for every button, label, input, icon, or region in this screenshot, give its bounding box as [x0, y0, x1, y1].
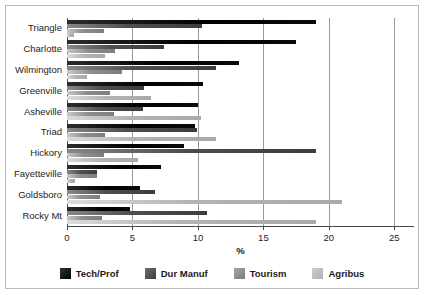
bar: [67, 153, 104, 157]
bar: [67, 96, 151, 100]
legend-label: Tech/Prof: [76, 268, 119, 279]
category-label: Charlotte: [23, 44, 62, 54]
x-tick-label: 15: [258, 232, 269, 243]
category-label: Goldsboro: [18, 190, 62, 200]
x-tick-label: 25: [389, 232, 400, 243]
bar: [67, 33, 74, 37]
bar: [67, 158, 138, 162]
bar-group: Triad: [67, 122, 414, 143]
bar: [67, 112, 114, 116]
bar: [67, 116, 201, 120]
bar: [67, 45, 164, 49]
bar: [67, 75, 87, 79]
x-axis-line: [67, 226, 414, 227]
bar: [67, 20, 316, 24]
bar: [67, 128, 197, 132]
bar: [67, 91, 110, 95]
bar: [67, 179, 75, 183]
bar: [67, 149, 316, 153]
bar: [67, 49, 115, 53]
category-label: Rocky Mt: [22, 211, 62, 221]
bar-group: Asheville: [67, 101, 414, 122]
bar-group: Hickory: [67, 143, 414, 164]
bar-group: Rocky Mt: [67, 205, 414, 226]
legend-label: Agribus: [328, 268, 364, 279]
bar: [67, 61, 239, 65]
bar-group: Greenville: [67, 80, 414, 101]
bar: [67, 195, 100, 199]
x-tick-mark: [394, 226, 395, 230]
legend-swatch-icon: [234, 268, 245, 279]
bar: [67, 29, 104, 33]
chart-frame: TriangleCharlotteWilmingtonGreenvilleAsh…: [5, 5, 419, 289]
x-tick-label: 5: [130, 232, 135, 243]
bar: [67, 124, 195, 128]
x-tick-mark: [67, 226, 68, 230]
bar: [67, 144, 184, 148]
bar: [67, 170, 97, 174]
legend-item[interactable]: Tourism: [234, 268, 287, 279]
bar: [67, 133, 105, 137]
legend-label: Dur Manuf: [161, 268, 208, 279]
category-label: Triad: [41, 127, 62, 137]
bar: [67, 165, 161, 169]
legend-swatch-icon: [145, 268, 156, 279]
bar-group: Charlotte: [67, 39, 414, 60]
bar: [67, 107, 143, 111]
bar: [67, 190, 155, 194]
bar-group: Wilmington: [67, 60, 414, 81]
bar: [67, 216, 102, 220]
bar: [67, 207, 130, 211]
legend-item[interactable]: Dur Manuf: [145, 268, 208, 279]
bar-group: Triangle: [67, 18, 414, 39]
bar: [67, 137, 216, 141]
bar: [67, 24, 202, 28]
category-label: Wilmington: [15, 65, 62, 75]
x-tick-mark: [263, 226, 264, 230]
bar: [67, 174, 97, 178]
category-label: Fayetteville: [14, 169, 62, 179]
bar: [67, 211, 207, 215]
legend-item[interactable]: Agribus: [312, 268, 364, 279]
category-label: Triangle: [28, 23, 62, 33]
bar-group: Fayetteville: [67, 164, 414, 185]
x-tick-mark: [198, 226, 199, 230]
bar: [67, 220, 316, 224]
bar: [67, 82, 203, 86]
category-label: Asheville: [24, 107, 62, 117]
x-axis-title: %: [67, 245, 414, 256]
bar: [67, 70, 122, 74]
bar: [67, 54, 105, 58]
category-label: Greenville: [19, 86, 62, 96]
legend-swatch-icon: [60, 268, 71, 279]
plot-area: TriangleCharlotteWilmingtonGreenvilleAsh…: [67, 18, 414, 226]
legend-swatch-icon: [312, 268, 323, 279]
bar: [67, 86, 144, 90]
x-tick-label: 0: [64, 232, 69, 243]
bar-group: Goldsboro: [67, 184, 414, 205]
bar: [67, 103, 198, 107]
bar: [67, 186, 140, 190]
legend-item[interactable]: Tech/Prof: [60, 268, 119, 279]
x-tick-mark: [329, 226, 330, 230]
chart-legend: Tech/ProfDur ManufTourismAgribus: [18, 264, 406, 282]
bar: [67, 66, 216, 70]
x-tick-mark: [132, 226, 133, 230]
x-tick-label: 20: [324, 232, 335, 243]
x-tick-label: 10: [193, 232, 204, 243]
legend-label: Tourism: [250, 268, 287, 279]
bar: [67, 200, 342, 204]
category-label: Hickory: [30, 148, 62, 158]
bar: [67, 40, 296, 44]
